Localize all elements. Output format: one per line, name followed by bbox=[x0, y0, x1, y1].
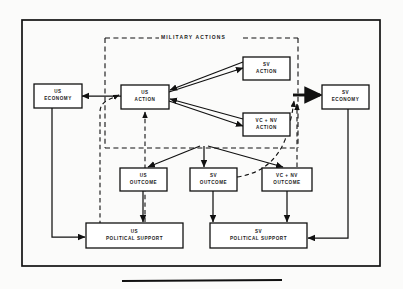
diagram-vector-layer bbox=[0, 0, 403, 289]
edge-actions-to-vc-nv-outcome bbox=[208, 146, 283, 167]
bottom-rule bbox=[122, 280, 282, 281]
diagram-canvas: MILITARY ACTIONS US ECONOMY US ACTION SV… bbox=[0, 0, 403, 289]
node-vc-nv-outcome[interactable] bbox=[262, 168, 312, 191]
node-sv-outcome[interactable] bbox=[190, 168, 237, 191]
edge-us-economy-to-us-political-support bbox=[52, 108, 85, 237]
node-sv-action[interactable] bbox=[243, 57, 290, 80]
group-label-military-actions: MILITARY ACTIONS bbox=[159, 34, 228, 40]
edge-sv-action-to-us-action bbox=[170, 62, 243, 90]
outer-frame bbox=[22, 20, 380, 266]
node-us-political-support[interactable] bbox=[86, 223, 183, 248]
node-us-outcome[interactable] bbox=[120, 168, 167, 191]
node-sv-political-support[interactable] bbox=[210, 223, 307, 248]
node-us-economy[interactable] bbox=[34, 84, 82, 108]
edge-actions-to-us-outcome bbox=[148, 146, 200, 167]
node-vc-nv-action[interactable] bbox=[243, 113, 290, 136]
edge-us-action-to-sv-action bbox=[169, 68, 243, 92]
edge-vc-nv-action-to-us-action bbox=[170, 99, 243, 119]
edge-sv-economy-to-sv-political-support bbox=[308, 109, 348, 238]
node-us-action[interactable] bbox=[121, 85, 169, 109]
node-sv-economy[interactable] bbox=[322, 85, 369, 109]
edge-us-action-to-vc-nv-action bbox=[169, 101, 243, 126]
